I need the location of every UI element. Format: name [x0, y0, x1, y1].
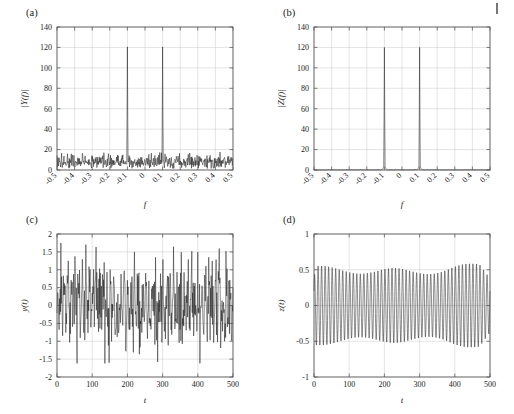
- panel-a-ytick-label: 0: [48, 166, 52, 175]
- panel-d-ytick-label: 0: [305, 301, 309, 310]
- panel-b-ytick-label: 100: [297, 64, 309, 73]
- panel-d-xtick-label: 100: [343, 380, 355, 389]
- panel-c-ytick-label: -1.5: [39, 355, 52, 364]
- panel-a-ylabel: |Y(f)|: [19, 89, 29, 107]
- panel-c-xtick-label: 300: [157, 380, 169, 389]
- panel-c-xtick-label: 500: [227, 380, 239, 389]
- panel-c-ytick-label: 2: [48, 230, 52, 239]
- panel-b-ytick-label: 60: [301, 105, 309, 114]
- panel-c-xtick-label: 200: [121, 380, 133, 389]
- panel-b-ytick-label: 80: [301, 84, 309, 93]
- panel-a-ytick-label: 120: [40, 43, 52, 52]
- panel-c-xtick-label: 400: [192, 380, 204, 389]
- panel-d-xtick-label: 400: [449, 380, 461, 389]
- panel-a-ytick-label: 80: [44, 84, 52, 93]
- panel-c-ytick-label: 1: [48, 266, 52, 275]
- panel-c-ytick-label: -1: [45, 337, 52, 346]
- panel-c-ylabel: y(t): [19, 299, 29, 313]
- panel-a-ytick-label: 20: [44, 145, 52, 154]
- panel-d-label: (d): [283, 214, 296, 226]
- panel-c-ytick-label: -0.5: [39, 319, 52, 328]
- panel-d-ylabel: z(t): [276, 300, 286, 313]
- panel-a-ytick-label: 40: [44, 125, 52, 134]
- panel-d-xtick-label: 500: [484, 380, 496, 389]
- panel-d-ytick-label: -1: [302, 373, 309, 382]
- panel-b-ytick-label: 0: [305, 166, 309, 175]
- panel-d-xtick-label: 200: [378, 380, 390, 389]
- panel-c-xtick-label: 100: [86, 380, 98, 389]
- panel-b-label: (b): [283, 7, 296, 19]
- figure-canvas: (a)-0.5-0.4-0.3-0.2-0.100.10.20.30.40.50…: [0, 0, 514, 414]
- panel-a-ytick-label: 60: [44, 105, 52, 114]
- panel-b-ytick-label: 20: [301, 145, 309, 154]
- panel-d-ytick-label: -0.5: [296, 337, 309, 346]
- panel-d-xtick-label: 0: [312, 380, 316, 389]
- panel-d-ytick-label: 1: [305, 230, 309, 239]
- panel-c-label: (c): [26, 214, 38, 226]
- panel-d-ytick-label: 0.5: [299, 266, 309, 275]
- panel-c-ytick-label: 0.5: [42, 283, 52, 292]
- panel-d-xtick-label: 300: [414, 380, 426, 389]
- panel-b-ytick-label: 120: [297, 43, 309, 52]
- panel-b-ytick-label: 40: [301, 125, 309, 134]
- panel-c-ytick-label: -2: [45, 373, 52, 382]
- panel-a-ytick-label: 100: [40, 64, 52, 73]
- panel-a-ytick-label: 140: [40, 23, 52, 32]
- panel-b-ytick-label: 140: [297, 23, 309, 32]
- panel-c-xtick-label: 0: [55, 380, 59, 389]
- panel-c-ytick-label: 1.5: [42, 248, 52, 257]
- panel-c-ytick-label: 0: [48, 301, 52, 310]
- panel-a-label: (a): [26, 7, 38, 19]
- panel-b-ylabel: |Z(f)|: [276, 89, 286, 107]
